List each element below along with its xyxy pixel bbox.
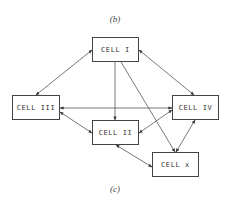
cell-network-diagram: (b) CELL I CELL III CELL IV CELL II CELL… [0,0,227,203]
caption-c: (c) [100,184,130,194]
arrow-cell2-cellx [116,145,152,167]
cell-3-box: CELL III [12,95,60,120]
cell-x-box: CELL x [152,152,199,177]
arrow-cell4-cellx [176,120,195,152]
arrow-cell1-cell4 [139,50,194,95]
cell-2-box: CELL II [92,120,139,145]
cell-1-box: CELL I [92,37,139,62]
arrow-cell1-cell3 [36,50,92,95]
caption-b: (b) [100,14,130,24]
arrow-cell3-cell2 [60,112,92,133]
arrow-cell2-cell4 [139,110,172,133]
cell-4-box: CELL IV [172,95,219,120]
